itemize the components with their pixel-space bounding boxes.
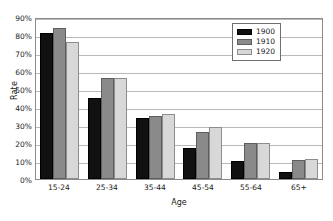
x-axis-tick-label: 15-24 [35,183,83,192]
y-axis-tick-label: 20% [8,140,32,149]
bar[interactable] [66,42,79,179]
y-axis-tick-label: 0% [8,176,32,185]
legend-swatch-icon [237,49,252,55]
bar-chart: Rate 0%10%20%30%40%50%60%70%80%90% 15-24… [0,0,333,221]
y-axis-tick-label: 70% [8,50,32,59]
legend: 190019101920 [232,23,281,61]
bar-group [84,19,132,179]
bar[interactable] [183,148,196,179]
bar[interactable] [162,114,175,179]
legend-label: 1900 [256,28,275,36]
legend-swatch-icon [237,29,252,35]
bar[interactable] [257,143,270,179]
y-axis-tick-label: 90% [8,14,32,23]
bar[interactable] [101,78,114,179]
bar[interactable] [149,116,162,179]
bar[interactable] [88,98,101,179]
x-axis-tick-label: 35-44 [131,183,179,192]
x-axis-tick-label: 45-54 [179,183,227,192]
x-axis-tick-labels: 15-2425-3435-4445-5455-6465+ [35,183,323,192]
bar[interactable] [305,159,318,179]
legend-item[interactable]: 1910 [237,37,275,47]
y-axis-tick-label: 50% [8,86,32,95]
y-axis-tick-labels: 0%10%20%30%40%50%60%70%80%90% [8,18,32,180]
bar[interactable] [279,172,292,179]
y-axis-tick-label: 80% [8,32,32,41]
bar[interactable] [114,78,127,179]
y-axis-tick-label: 40% [8,104,32,113]
legend-swatch-icon [237,39,252,45]
bar[interactable] [40,33,53,179]
bar[interactable] [244,143,257,179]
bar[interactable] [209,127,222,179]
bar[interactable] [53,28,66,179]
x-axis-title: Age [35,198,323,207]
y-axis-tick-label: 10% [8,158,32,167]
x-axis-tick-label: 65+ [275,183,323,192]
legend-item[interactable]: 1920 [237,47,275,57]
bar-group [36,19,84,179]
legend-item[interactable]: 1900 [237,27,275,37]
bar[interactable] [231,161,244,179]
bar-group [179,19,227,179]
bar[interactable] [136,118,149,179]
bar-group [131,19,179,179]
x-axis-tick-label: 55-64 [227,183,275,192]
legend-label: 1920 [256,48,275,56]
bar-group [274,19,322,179]
bar[interactable] [196,132,209,179]
x-axis-tick-label: 25-34 [83,183,131,192]
y-axis-tick-label: 30% [8,122,32,131]
bar[interactable] [292,160,305,179]
y-axis-tick-label: 60% [8,68,32,77]
legend-label: 1910 [256,38,275,46]
